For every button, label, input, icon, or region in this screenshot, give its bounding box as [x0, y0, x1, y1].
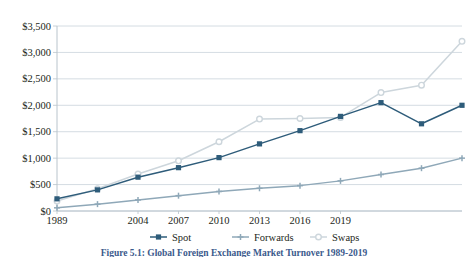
data-point [378, 90, 384, 96]
chart-legend: SpotForwardsSwaps [150, 232, 359, 243]
x-axis-tick-label: 2016 [290, 215, 311, 226]
y-axis-tick-label: $2,000 [22, 100, 51, 111]
x-axis-tick-label: 2007 [168, 215, 189, 226]
data-point [257, 141, 262, 146]
legend-swatch-marker [316, 234, 322, 240]
data-point [419, 165, 425, 171]
series-swaps [54, 39, 465, 204]
data-point [459, 39, 465, 45]
x-axis-labels: 1989200420072010201320162019 [47, 211, 352, 226]
data-point [419, 82, 425, 88]
x-axis-tick-label: 2010 [209, 215, 230, 226]
y-axis-labels: $0$500$1,000$1,500$2,000$2,500$3,000$3,5… [22, 21, 57, 217]
y-axis-tick-label: $2,500 [22, 73, 51, 84]
data-point [176, 193, 182, 199]
series-forwards [54, 155, 465, 211]
data-point [338, 114, 343, 119]
figure-caption: Figure 5.1: Global Foreign Exchange Mark… [101, 248, 368, 257]
y-axis-tick-label: $3,500 [22, 21, 51, 32]
figure-caption-text: Figure 5.1: Global Foreign Exchange Mark… [101, 248, 368, 257]
x-axis-tick-label: 2019 [330, 215, 351, 226]
data-point [459, 103, 464, 108]
x-axis-tick-label: 1989 [47, 215, 68, 226]
data-point [419, 121, 424, 126]
data-point [54, 205, 60, 211]
data-point [378, 100, 383, 105]
legend-label-forwards[interactable]: Forwards [254, 232, 294, 243]
data-point [378, 172, 384, 178]
data-point [297, 128, 302, 133]
data-point [54, 196, 59, 201]
data-point [216, 155, 221, 160]
data-point [176, 165, 181, 170]
data-point [95, 187, 100, 192]
data-point [297, 183, 303, 189]
legend-label-spot[interactable]: Spot [172, 232, 191, 243]
chart-figure: $0$500$1,000$1,500$2,000$2,500$3,000$3,5… [0, 0, 468, 257]
y-axis-tick-label: $1,500 [22, 126, 51, 137]
data-point [297, 116, 303, 122]
data-point [135, 197, 141, 203]
series-layer [54, 39, 465, 211]
y-axis-tick-label: $3,000 [22, 47, 51, 58]
data-point [216, 188, 222, 194]
data-point [257, 116, 263, 122]
x-axis-tick-label: 2004 [128, 215, 150, 226]
legend-label-swaps[interactable]: Swaps [332, 232, 359, 243]
data-point [459, 155, 465, 161]
data-point [135, 175, 140, 180]
y-axis-tick-label: $1,000 [22, 153, 51, 164]
data-point [176, 158, 182, 164]
data-point [257, 185, 263, 191]
data-point [338, 178, 344, 184]
legend-swatch-marker [238, 234, 244, 240]
x-axis-tick-label: 2013 [249, 215, 270, 226]
y-axis-tick-label: $500 [30, 179, 51, 190]
data-point [95, 201, 101, 207]
data-point [216, 139, 222, 145]
legend-swatch-marker [156, 234, 161, 239]
